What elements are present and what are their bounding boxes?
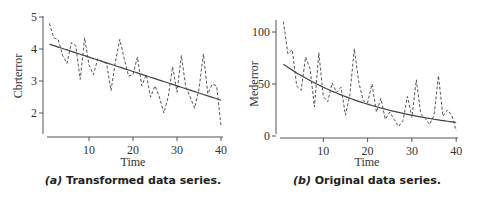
chart-b: 050100 10203040 Time Mederror (b) Origin… — [247, 20, 462, 187]
fitted-line-a — [49, 44, 221, 100]
y-tick-label: 3 — [31, 74, 37, 88]
y-tick-label: 2 — [31, 106, 37, 120]
y-axis-title-a: Cbrterror — [11, 54, 25, 99]
y-tick-label: 4 — [31, 42, 37, 56]
y-tick-label: 5 — [31, 10, 37, 24]
y-tick-label: 0 — [264, 129, 270, 143]
figure: 2345 10203040 Time Cbrterror (a) Transfo… — [0, 0, 477, 199]
y-tick-label: 100 — [252, 25, 270, 39]
caption-b: (b) Original data series. — [293, 174, 441, 187]
x-axis-title-b: Time — [355, 155, 380, 169]
caption-a: (a) Transformed data series. — [45, 174, 221, 187]
x-tick-label: 30 — [171, 143, 183, 157]
observed-series-a — [49, 23, 221, 125]
chart-a: 2345 10203040 Time Cbrterror (a) Transfo… — [11, 10, 227, 187]
observed-series-b — [283, 22, 456, 131]
x-tick-label: 10 — [317, 144, 329, 158]
x-tick-label: 10 — [83, 143, 95, 157]
x-tick-label: 30 — [406, 144, 418, 158]
y-axis-title-b: Mederror — [247, 61, 261, 106]
x-tick-label: 40 — [450, 144, 462, 158]
x-tick-label: 40 — [215, 143, 227, 157]
x-axis-title-a: Time — [121, 155, 146, 169]
